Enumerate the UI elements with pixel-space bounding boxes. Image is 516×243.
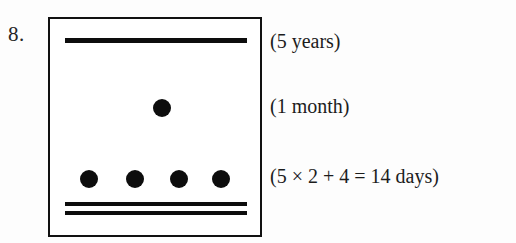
item-number: 8. xyxy=(8,24,25,45)
month-dot-mark xyxy=(153,99,171,117)
unit-dot-mark-4 xyxy=(212,170,230,188)
glyph-canvas xyxy=(50,19,260,235)
unit-dot-mark-3 xyxy=(170,170,188,188)
annotation-month: (1 month) xyxy=(270,96,349,116)
year-rule-mark xyxy=(65,38,247,43)
day-rule-mark-1 xyxy=(65,202,247,206)
exercise-figure: 8. (5 years) (1 month) (5 × 2 + 4 = 14 d… xyxy=(0,0,516,243)
unit-dot-mark-1 xyxy=(80,170,98,188)
annotation-days: (5 × 2 + 4 = 14 days) xyxy=(270,166,439,186)
day-rule-mark-2 xyxy=(65,211,247,215)
glyph-box xyxy=(48,17,262,237)
annotation-years: (5 years) xyxy=(270,31,341,51)
unit-dot-mark-2 xyxy=(126,170,144,188)
